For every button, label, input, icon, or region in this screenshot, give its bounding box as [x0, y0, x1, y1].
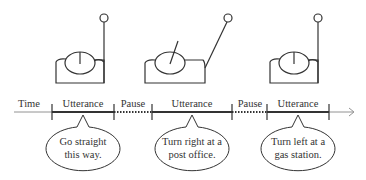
- bubble-1-line-1: Go straight: [60, 136, 107, 147]
- robot-figure-3: [270, 14, 322, 83]
- segment-label-pause-1: Pause: [121, 98, 146, 109]
- utterance-timeline-diagram: Time Utterance Pause Utterance Pause Utt…: [0, 0, 366, 180]
- robot-figure-1: [56, 14, 108, 83]
- bubble-2-line-2: post office.: [168, 149, 215, 160]
- segment-label-pause-2: Pause: [238, 98, 263, 109]
- robot-figure-2: [145, 14, 232, 83]
- bubble-3-line-1: Turn left at a: [271, 136, 325, 147]
- bubble-1-line-2: this way.: [64, 149, 101, 160]
- segment-label-utterance-3: Utterance: [278, 98, 319, 109]
- bubble-2-line-1: Turn right at a: [162, 136, 222, 147]
- segment-label-utterance-1: Utterance: [63, 98, 104, 109]
- bubble-3-line-2: gas station.: [274, 149, 321, 160]
- time-axis-label: Time: [18, 98, 40, 109]
- segment-label-utterance-2: Utterance: [172, 98, 213, 109]
